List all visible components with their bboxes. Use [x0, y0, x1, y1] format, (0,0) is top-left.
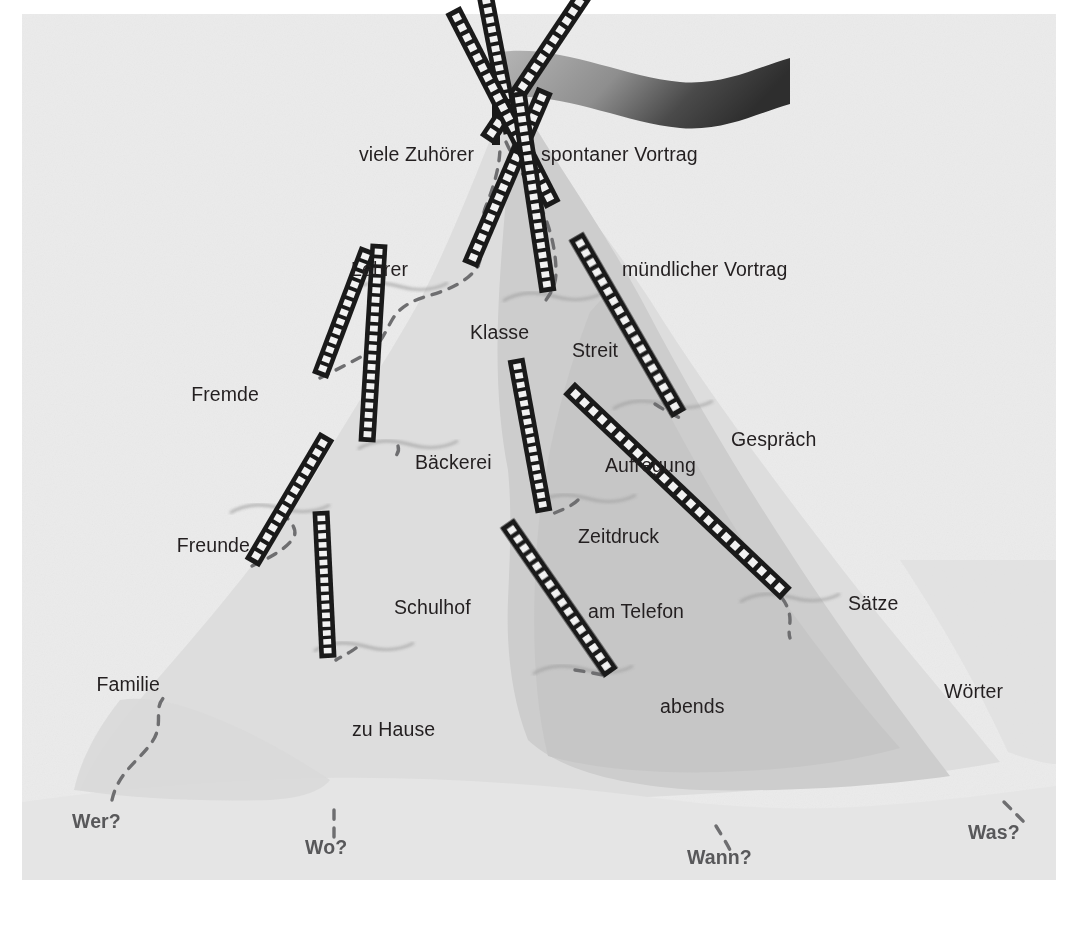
ladder-rung-gap — [522, 145, 531, 152]
label-abends: abends — [660, 697, 725, 717]
label-muendlicher-vortrag: mündlicher Vortrag — [622, 260, 787, 280]
question-wo: Wo? — [305, 838, 347, 858]
ladder-rung-gap — [318, 533, 326, 539]
ladder-rung-gap — [321, 586, 329, 592]
ladder-rung-gap — [372, 287, 380, 293]
ladder-rung-gap — [319, 560, 327, 566]
ladder-rung-gap — [322, 604, 330, 610]
ladder-rung-gap — [367, 373, 375, 379]
ladder-rung-gap — [319, 551, 327, 557]
question-was: Was? — [968, 823, 1020, 843]
ladder-rung-gap — [366, 393, 374, 399]
label-am-telefon: am Telefon — [588, 602, 684, 622]
question-wer: Wer? — [72, 812, 121, 832]
ladder-rung-gap — [372, 297, 380, 303]
label-zeitdruck: Zeitdruck — [578, 527, 659, 547]
question-wann: Wann? — [687, 848, 752, 868]
ladder-rung-gap — [374, 249, 382, 255]
label-viele-zuhoerer: viele Zuhörer — [359, 145, 474, 165]
ladder-rung-gap — [541, 271, 550, 278]
ladder-rung-gap — [323, 639, 331, 645]
label-spontaner-vortrag: spontaner Vortrag — [541, 145, 698, 165]
ladder-rung-gap — [367, 364, 375, 370]
ladder-rung-gap — [516, 106, 525, 113]
ladder-rung-gap — [371, 306, 379, 312]
mountain-diagram — [0, 0, 1084, 926]
label-klasse: Klasse — [470, 323, 529, 343]
label-saetze: Sätze — [848, 594, 898, 614]
ladder-rung-gap — [369, 345, 377, 351]
label-zu-hause: zu Hause — [352, 720, 435, 740]
ladder-rung-gap — [320, 577, 328, 583]
ladder-rung-gap — [370, 316, 378, 322]
ladder-rung-gap — [535, 232, 544, 239]
label-lehrer: Lehrer — [351, 260, 408, 280]
ladder-rung-gap — [528, 184, 537, 191]
ladder-rung-gap — [364, 421, 372, 427]
ladder-rung-gap — [365, 412, 373, 418]
ladder-rung-gap — [532, 213, 541, 220]
label-woerter: Wörter — [944, 682, 1003, 702]
label-familie: Familie — [96, 675, 160, 695]
ladder-rung-gap — [543, 281, 552, 288]
ladder-rung-gap — [521, 135, 530, 142]
ladder-rung-gap — [363, 431, 371, 437]
ladder-rung-gap — [369, 335, 377, 341]
label-fremde: Fremde — [191, 385, 259, 405]
ladder-rung-gap — [370, 325, 378, 331]
ladder-rung-gap — [322, 621, 330, 627]
ladder-rung-gap — [317, 515, 325, 521]
ladder-rung-gap — [320, 568, 328, 574]
ladder-rung-gap — [525, 164, 534, 171]
ladder-rung-gap — [318, 524, 326, 530]
ladder-rung-gap — [324, 648, 332, 654]
ladder-rung-gap — [534, 222, 543, 229]
label-schulhof: Schulhof — [394, 598, 471, 618]
ladder-rung-gap — [321, 595, 329, 601]
ladder-rung-gap — [538, 251, 547, 258]
label-baeckerei: Bäckerei — [415, 453, 492, 473]
label-aufregung: Aufregung — [605, 456, 696, 476]
label-freunde: Freunde — [177, 536, 250, 556]
ladder-rung-gap — [529, 193, 538, 200]
label-streit: Streit — [572, 341, 618, 361]
ladder-rung-gap — [518, 116, 527, 123]
ladder-rung-gap — [365, 402, 373, 408]
label-gespraech: Gespräch — [731, 430, 816, 450]
ladder-rung-gap — [322, 612, 330, 618]
ladder-rung-gap — [366, 383, 374, 389]
ladder-rung-gap — [527, 174, 536, 181]
ladder-rung-gap — [537, 242, 546, 249]
ladder-rung-gap — [515, 96, 524, 103]
ladder-rung-gap — [319, 542, 327, 548]
ladder-rung-gap — [323, 630, 331, 636]
figure-canvas: viele Zuhörerspontaner VortragLehrermünd… — [0, 0, 1084, 926]
ladder-rung-gap — [368, 354, 376, 360]
ladder-rung-gap — [540, 261, 549, 268]
ladder-rung-gap — [531, 203, 540, 210]
ladder-rung-gap — [524, 154, 533, 161]
ladder-rung-gap — [519, 125, 528, 132]
